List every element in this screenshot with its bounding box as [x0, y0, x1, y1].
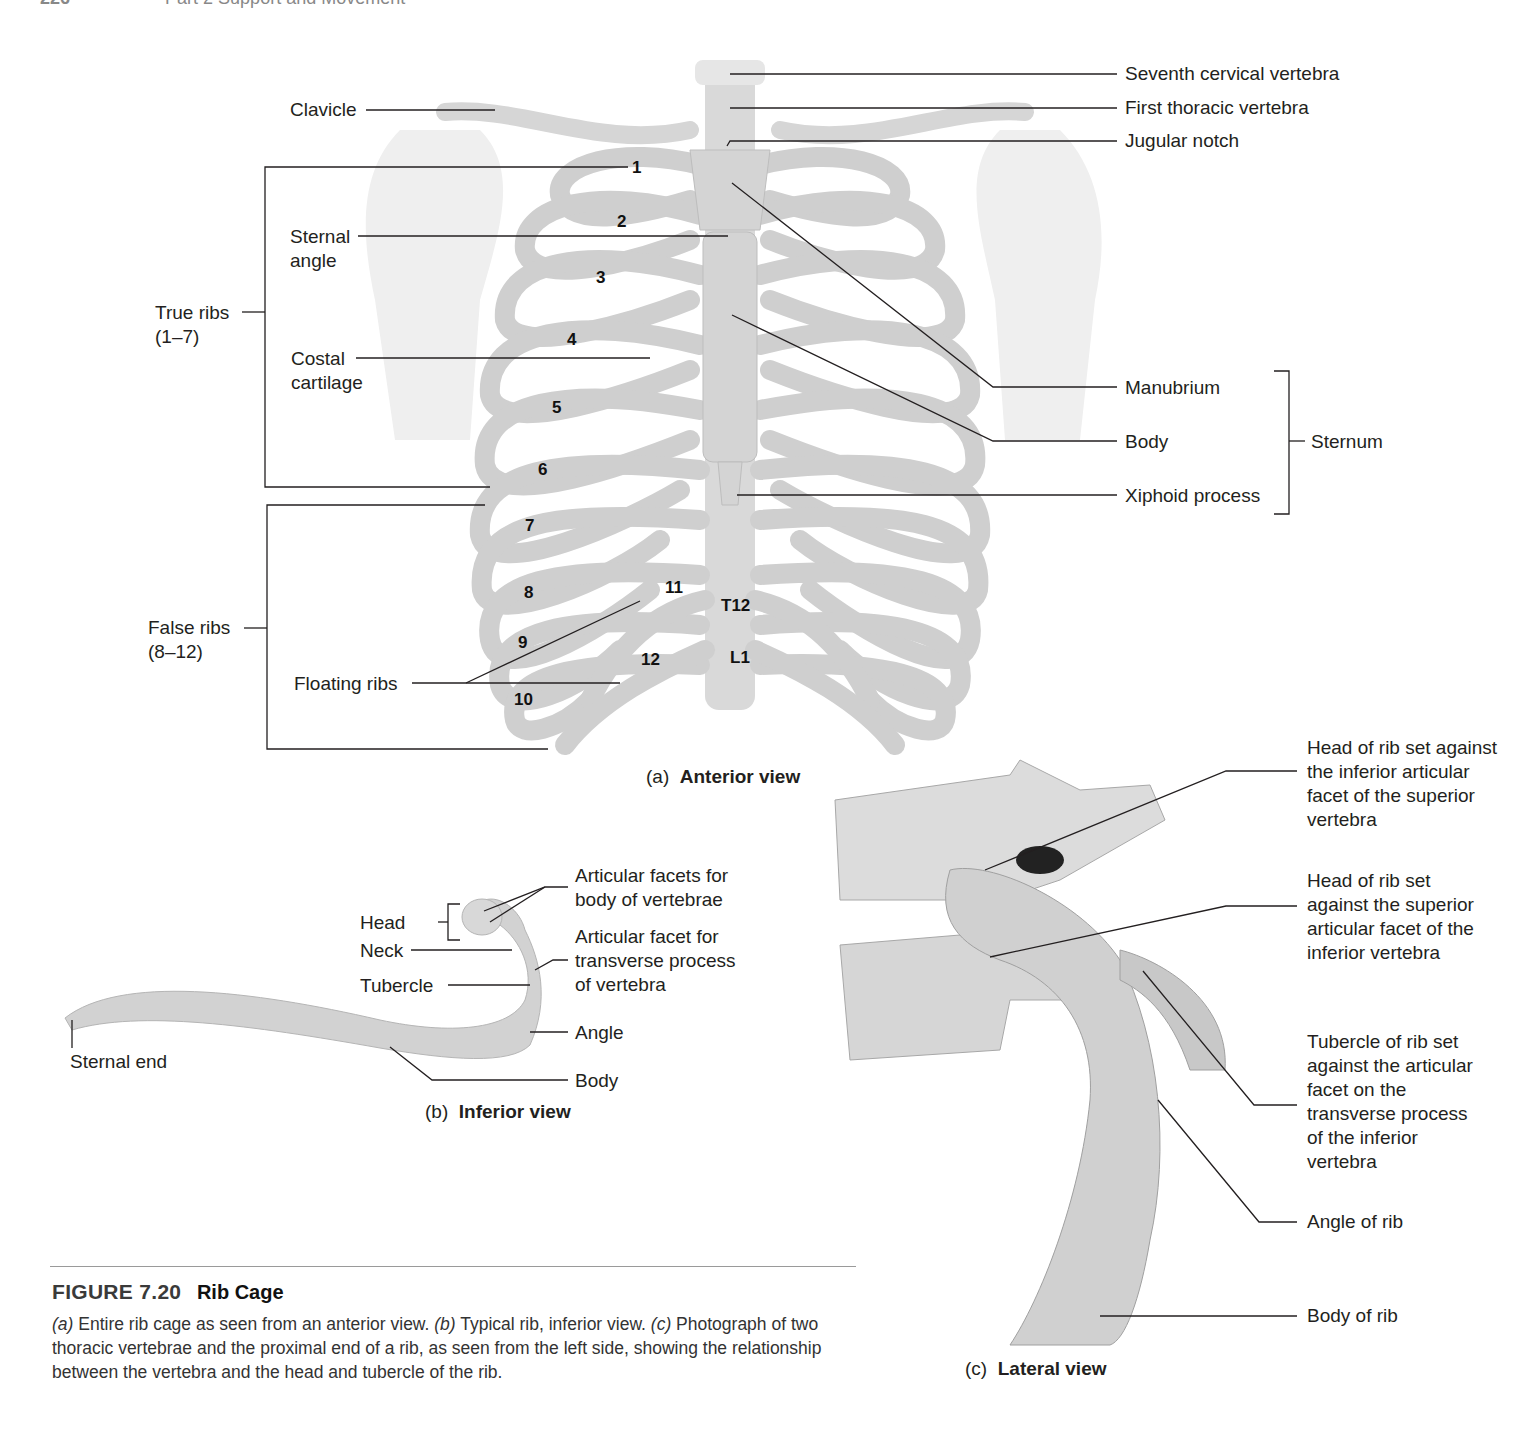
label-facet-transverse-3: of vertebra	[575, 973, 666, 997]
figure-title: FIGURE 7.20 Rib Cage	[52, 1280, 284, 1304]
label-seventh-cervical: Seventh cervical vertebra	[1125, 62, 1339, 86]
rib-number-10: 10	[514, 690, 533, 710]
label-rib-body: Body	[575, 1069, 618, 1093]
typical-rib-illustration	[65, 899, 541, 1059]
caption-divider	[50, 1266, 856, 1267]
label-first-thoracic: First thoracic vertebra	[1125, 96, 1309, 120]
label-false-ribs-1: False ribs	[148, 616, 230, 640]
label-sternal-angle-2: angle	[290, 249, 337, 273]
label-sternal-end: Sternal end	[70, 1050, 167, 1074]
label-clavicle: Clavicle	[290, 98, 357, 122]
rib-number-9: 9	[518, 633, 527, 653]
label-head-superior-facet: Head of rib set against the superior art…	[1307, 869, 1487, 965]
label-tubercle: Tubercle	[360, 974, 433, 998]
rib-number-8: 8	[524, 583, 533, 603]
caption-inferior-view: (b) Inferior view	[425, 1101, 571, 1123]
label-facet-transverse-1: Articular facet for	[575, 925, 719, 949]
rib-number-5: 5	[552, 398, 561, 418]
label-manubrium: Manubrium	[1125, 376, 1220, 400]
ribs-right	[755, 157, 980, 745]
label-sternum: Sternum	[1311, 430, 1383, 454]
rib-number-2: 2	[617, 212, 626, 232]
vertebra-label-t12: T12	[721, 596, 750, 616]
caption-lateral-view: (c) Lateral view	[965, 1358, 1107, 1380]
label-false-ribs-2: (8–12)	[148, 640, 203, 664]
label-costal-cartilage-1: Costal	[291, 347, 345, 371]
label-floating-ribs: Floating ribs	[294, 672, 398, 696]
label-tubercle-of-rib: Tubercle of rib set against the articula…	[1307, 1030, 1482, 1174]
label-body: Body	[1125, 430, 1168, 454]
rib-number-4: 4	[567, 330, 576, 350]
lateral-vertebrae-photo	[835, 760, 1225, 1345]
vertebra-label-l1: L1	[730, 648, 750, 668]
label-sternal-angle-1: Sternal	[290, 225, 350, 249]
figure-number: FIGURE 7.20	[52, 1280, 181, 1303]
caption-anterior-view: (a) Anterior view	[646, 766, 800, 788]
rib-number-1: 1	[632, 158, 641, 178]
rib-number-12: 12	[641, 650, 660, 670]
rib-number-7: 7	[525, 516, 534, 536]
label-head: Head	[360, 911, 405, 935]
label-neck: Neck	[360, 939, 403, 963]
label-jugular-notch: Jugular notch	[1125, 129, 1239, 153]
label-body-of-rib: Body of rib	[1307, 1304, 1398, 1328]
label-true-ribs-2: (1–7)	[155, 325, 199, 349]
label-facets-body-2: body of vertebrae	[575, 888, 723, 912]
rib-number-6: 6	[538, 460, 547, 480]
ribs-left	[480, 157, 705, 745]
label-xiphoid: Xiphoid process	[1125, 484, 1260, 508]
figure-caption: (a) Entire rib cage as seen from an ante…	[52, 1312, 872, 1384]
label-facets-body-1: Articular facets for	[575, 864, 728, 888]
label-costal-cartilage-2: cartilage	[291, 371, 363, 395]
label-facet-transverse-2: transverse process	[575, 949, 736, 973]
rib-number-3: 3	[596, 268, 605, 288]
figure-name: Rib Cage	[197, 1281, 284, 1303]
label-angle: Angle	[575, 1021, 624, 1045]
rib-number-11: 11	[665, 578, 683, 598]
label-angle-of-rib: Angle of rib	[1307, 1210, 1403, 1234]
label-head-inferior-facet: Head of rib set against the inferior art…	[1307, 736, 1507, 832]
label-true-ribs-1: True ribs	[155, 301, 229, 325]
